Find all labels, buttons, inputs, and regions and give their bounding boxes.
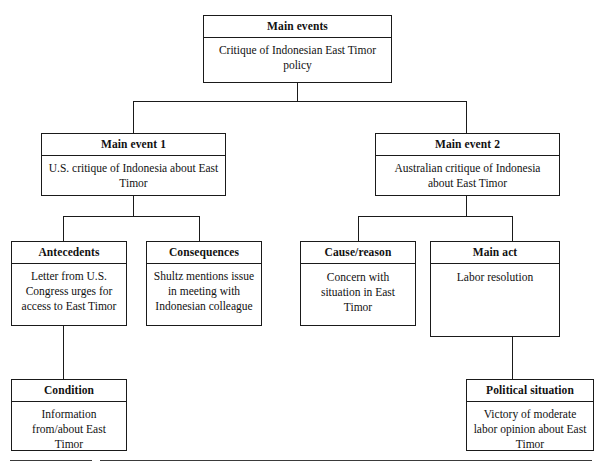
node-cause-reason-body: Concern with situation in East Timor: [301, 264, 415, 325]
connector-to-cause-reason: [358, 216, 359, 241]
node-main-act[interactable]: Main act Labor resolution: [430, 241, 560, 337]
node-political-situation[interactable]: Political situation Victory of moderate …: [466, 379, 594, 451]
page-rule-right: [100, 460, 592, 461]
node-cause-reason[interactable]: Cause/reason Concern with situation in E…: [300, 241, 416, 326]
node-political-situation-body: Victory of moderate labor opinion about …: [467, 402, 593, 457]
node-main-act-body: Labor resolution: [431, 264, 559, 336]
node-condition[interactable]: Condition Information from/about East Ti…: [11, 379, 127, 451]
node-main-event-2-body: Australian critique of Indonesia about E…: [376, 156, 559, 195]
node-main-event-2-header: Main event 2: [376, 134, 559, 156]
node-main-event-1-header: Main event 1: [42, 134, 225, 156]
connector-level2-right-bus: [358, 216, 512, 217]
node-antecedents-body: Letter from U.S. Congress urges for acce…: [12, 264, 126, 325]
connector-root-stem: [297, 83, 298, 102]
connector-main-event-1-stem: [133, 196, 134, 216]
node-main-events-body: Critique of Indonesian East Timor policy: [204, 38, 391, 82]
node-political-situation-header: Political situation: [467, 380, 593, 402]
connector-to-main-event-2: [466, 101, 467, 133]
node-main-events-header: Main events: [204, 16, 391, 38]
connector-to-main-act: [512, 216, 513, 241]
connector-level1-bus: [133, 101, 467, 102]
node-main-act-header: Main act: [431, 242, 559, 264]
page-rule-left: [10, 460, 92, 461]
connector-to-main-event-1: [133, 101, 134, 133]
node-consequences[interactable]: Consequences Shultz mentions issue in me…: [146, 241, 262, 326]
node-main-event-2[interactable]: Main event 2 Australian critique of Indo…: [375, 133, 560, 196]
connector-level2-left-bus: [63, 216, 199, 217]
node-main-events[interactable]: Main events Critique of Indonesian East …: [203, 15, 392, 83]
node-cause-reason-header: Cause/reason: [301, 242, 415, 264]
node-consequences-body: Shultz mentions issue in meeting with In…: [147, 264, 261, 325]
node-consequences-header: Consequences: [147, 242, 261, 264]
connector-main-act-to-political-situation: [512, 337, 513, 379]
connector-main-event-2-stem: [466, 196, 467, 216]
node-condition-body: Information from/about East Timor: [12, 402, 126, 457]
node-antecedents-header: Antecedents: [12, 242, 126, 264]
connector-to-consequences: [199, 216, 200, 241]
node-antecedents[interactable]: Antecedents Letter from U.S. Congress ur…: [11, 241, 127, 326]
connector-antecedents-to-condition: [63, 326, 64, 379]
node-main-event-1[interactable]: Main event 1 U.S. critique of Indonesia …: [41, 133, 226, 196]
connector-to-antecedents: [63, 216, 64, 241]
diagram-canvas: Main events Critique of Indonesian East …: [0, 0, 600, 465]
node-condition-header: Condition: [12, 380, 126, 402]
node-main-event-1-body: U.S. critique of Indonesia about East Ti…: [42, 156, 225, 195]
